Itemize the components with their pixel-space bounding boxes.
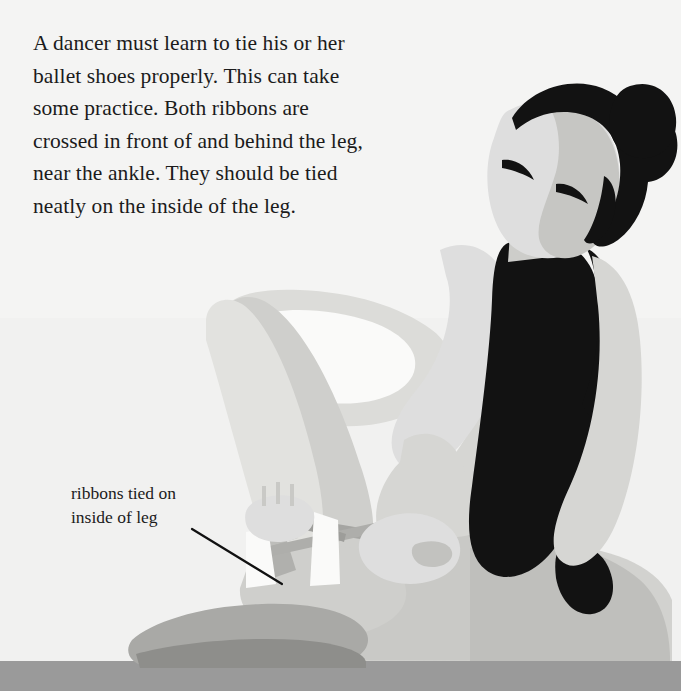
body-line-6: neatly on the inside of the leg.	[33, 190, 453, 223]
finger-3	[290, 484, 294, 506]
body-line-1: A dancer must learn to tie his or her	[33, 27, 453, 60]
body-line-2: ballet shoes properly. This can take	[33, 60, 453, 93]
body-line-3: some practice. Both ribbons are	[33, 92, 453, 125]
illustration-page: A dancer must learn to tie his or her ba…	[0, 0, 681, 691]
body-line-4: crossed in front of and behind the leg,	[33, 125, 453, 158]
gap-highlight-mid	[310, 512, 340, 586]
callout-label: ribbons tied on inside of leg	[71, 481, 281, 529]
callout-line-1: ribbons tied on	[71, 481, 281, 505]
body-line-5: near the ankle. They should be tied	[33, 157, 453, 190]
hair-bun-shape	[609, 84, 676, 158]
callout-line-2: inside of leg	[71, 505, 281, 529]
body-paragraph: A dancer must learn to tie his or her ba…	[33, 27, 453, 222]
